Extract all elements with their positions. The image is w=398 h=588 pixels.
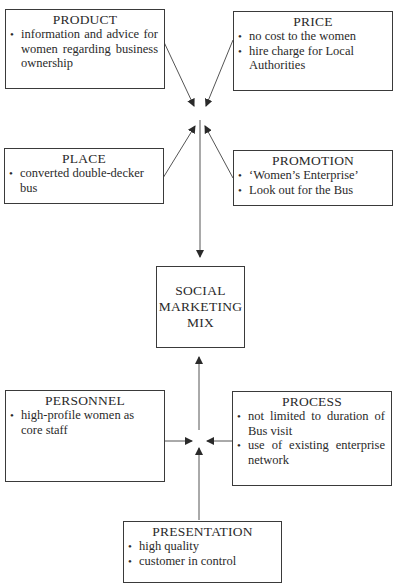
price-box: PRICE no cost to the women hire charge f…: [233, 11, 393, 91]
product-item: information and advice for women regardi…: [10, 27, 158, 71]
product-title: PRODUCT: [6, 12, 164, 27]
place-item: converted double-decker bus: [9, 166, 157, 195]
product-box: PRODUCT information and advice for women…: [5, 9, 165, 89]
process-item: not limited to duration of Bus visit: [237, 409, 385, 438]
arrow-promotion: [205, 126, 233, 178]
process-item: use of existing enterprise network: [237, 438, 385, 467]
presentation-item: high quality: [128, 539, 275, 554]
arrow-price: [206, 40, 233, 106]
promotion-item: ‘Women’s Enterprise’: [238, 168, 386, 183]
social-marketing-mix-box: SOCIAL MARKETING MIX: [156, 266, 245, 348]
center-line: SOCIAL: [159, 283, 243, 299]
process-title: PROCESS: [233, 394, 391, 409]
place-title: PLACE: [5, 151, 163, 166]
process-box: PROCESS not limited to duration of Bus v…: [232, 391, 392, 486]
center-line: MIX: [159, 315, 243, 331]
price-item: hire charge for Local Authorities: [238, 44, 386, 73]
personnel-item: high-profile women as core staff: [10, 408, 158, 437]
promotion-title: PROMOTION: [234, 153, 392, 168]
place-box: PLACE converted double-decker bus: [4, 148, 164, 204]
promotion-item: Look out for the Bus: [238, 183, 386, 198]
price-item: no cost to the women: [238, 29, 386, 44]
personnel-title: PERSONNEL: [6, 393, 164, 408]
personnel-box: PERSONNEL high-profile women as core sta…: [5, 390, 165, 482]
arrow-product: [163, 40, 194, 106]
promotion-box: PROMOTION ‘Women’s Enterprise’ Look out …: [233, 150, 393, 206]
presentation-item: customer in control: [128, 554, 275, 569]
presentation-box: PRESENTATION high quality customer in co…: [123, 521, 282, 583]
presentation-title: PRESENTATION: [124, 524, 281, 539]
arrow-place: [163, 126, 195, 178]
center-line: MARKETING: [159, 299, 243, 315]
price-title: PRICE: [234, 14, 392, 29]
